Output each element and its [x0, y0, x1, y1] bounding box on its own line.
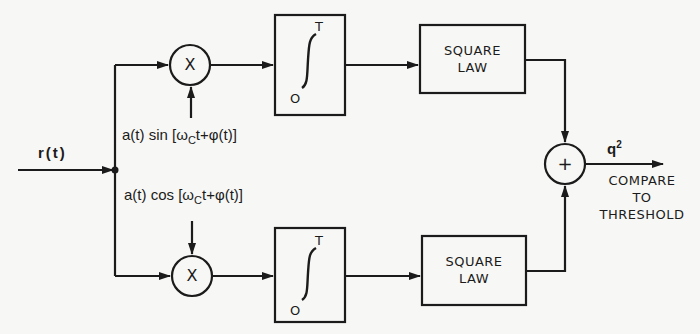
top-square-law-line2: LAW [420, 59, 525, 76]
cosine-reference-label: a(t) cos [ωCt+φ(t)] [124, 186, 243, 203]
summer-symbol: + [553, 153, 577, 174]
junction-dot [112, 167, 119, 174]
top-square-law-line1: SQUARE [420, 42, 525, 59]
output-note-line2: TO [588, 189, 696, 206]
bottom-sq-to-summer-line [526, 186, 565, 271]
top-integrator-box [275, 15, 345, 115]
bottom-integral-upper-limit: T [315, 232, 323, 249]
output-label: q2 [607, 139, 622, 157]
bottom-square-law-line1: SQUARE [422, 253, 526, 270]
bottom-multiplier-symbol: X [180, 266, 204, 285]
output-label-exponent: 2 [616, 139, 622, 150]
bottom-integral-sign [302, 248, 316, 300]
cosine-ref-prefix: a(t) cos [ω [124, 186, 194, 203]
top-integral-sign [302, 34, 316, 88]
sine-ref-subscript: C [188, 134, 196, 146]
top-integral-lower-limit: O [290, 90, 301, 107]
top-multiplier-symbol: X [178, 55, 202, 74]
output-label-base: q [607, 140, 616, 157]
output-note-line1: COMPARE [588, 172, 696, 189]
sine-ref-suffix: t+φ(t)] [196, 126, 237, 143]
top-integral-upper-limit: T [315, 18, 323, 35]
bottom-square-law-label: SQUARE LAW [422, 253, 526, 287]
cosine-ref-suffix: t+φ(t)] [202, 186, 243, 203]
bottom-integral-lower-limit: O [290, 302, 301, 319]
output-note-line3: THRESHOLD [588, 206, 696, 223]
output-note: COMPARE TO THRESHOLD [588, 172, 696, 223]
diagram-lines [0, 0, 700, 334]
bottom-integrator-box [275, 228, 345, 322]
sine-ref-prefix: a(t) sin [ω [122, 126, 188, 143]
receiver-block-diagram: r(t) X X a(t) sin [ωCt+φ(t)] a(t) cos [ω… [0, 0, 700, 334]
bottom-square-law-line2: LAW [422, 270, 526, 287]
top-sq-to-summer-line [525, 60, 565, 142]
sine-reference-label: a(t) sin [ωCt+φ(t)] [122, 126, 237, 143]
cosine-ref-subscript: C [194, 194, 202, 206]
input-label: r(t) [38, 144, 67, 161]
top-square-law-label: SQUARE LAW [420, 42, 525, 76]
